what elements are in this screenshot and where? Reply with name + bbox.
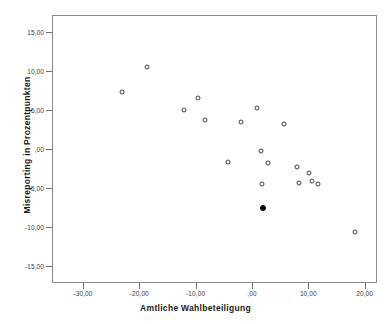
y-tick-mark [46, 227, 52, 228]
data-point [315, 182, 320, 187]
x-tick-label: -30,00 [73, 290, 92, 297]
data-point [309, 179, 314, 184]
x-tick-mark [196, 283, 197, 289]
data-point [145, 65, 150, 70]
data-point [259, 181, 264, 186]
data-point [226, 159, 231, 164]
y-tick-label: ,00 [35, 146, 44, 153]
data-point [258, 148, 263, 153]
scatter-plot-figure: 15,0010,005,00,00-5,00-10,00-15,00 -30,0… [0, 0, 391, 324]
data-point [297, 180, 302, 185]
x-tick-label: -20,00 [130, 290, 149, 297]
data-point [202, 118, 207, 123]
x-axis-title: Amtliche Wahlbeteiligung [0, 303, 391, 313]
y-tick-label: 5,00 [31, 107, 44, 114]
data-point [182, 108, 187, 113]
y-tick-mark [46, 188, 52, 189]
y-tick-label: -15,00 [25, 262, 44, 269]
data-point [120, 90, 125, 95]
y-axis-title: Misreporting in Prozentpunkten [22, 35, 32, 255]
plot-data-area [53, 16, 376, 282]
data-point [265, 161, 270, 166]
data-point [353, 229, 358, 234]
data-point [295, 165, 300, 170]
y-tick-mark [46, 71, 52, 72]
x-tick-label: 10,00 [300, 290, 317, 297]
y-tick-mark [46, 32, 52, 33]
data-point [195, 95, 200, 100]
data-point [238, 119, 243, 124]
y-tick-mark [46, 110, 52, 111]
data-point [282, 122, 287, 127]
x-tick-mark [365, 283, 366, 289]
x-tick-label: 20,00 [356, 290, 373, 297]
data-point [254, 105, 259, 110]
x-tick-mark [252, 283, 253, 289]
x-tick-mark [308, 283, 309, 289]
x-tick-label: ,00 [247, 290, 256, 297]
data-point [260, 205, 266, 211]
plot-frame [52, 15, 377, 283]
data-point [306, 170, 311, 175]
x-tick-mark [83, 283, 84, 289]
x-tick-mark [139, 283, 140, 289]
x-tick-label: -10,00 [186, 290, 205, 297]
y-tick-mark [46, 266, 52, 267]
y-tick-mark [46, 149, 52, 150]
